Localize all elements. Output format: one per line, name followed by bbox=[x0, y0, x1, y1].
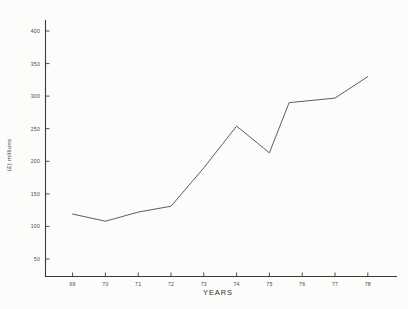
y-tick-label: 400 bbox=[26, 28, 40, 34]
y-axis-label: (£) millions bbox=[6, 139, 12, 172]
y-tick-label: 350 bbox=[26, 61, 40, 67]
x-tick-label: 69 bbox=[70, 281, 76, 287]
y-axis-ticks bbox=[46, 31, 50, 259]
line-chart-figure: 400 350 300 250 200 150 100 50 69 70 71 … bbox=[0, 0, 408, 309]
y-tick-label: 200 bbox=[26, 158, 40, 164]
x-tick-label: 78 bbox=[365, 281, 371, 287]
x-tick-label: 74 bbox=[234, 281, 240, 287]
y-tick-label: 100 bbox=[26, 223, 40, 229]
y-tick-label: 250 bbox=[26, 126, 40, 132]
x-axis-ticks bbox=[73, 273, 368, 277]
x-tick-label: 70 bbox=[102, 281, 108, 287]
x-tick-label: 75 bbox=[266, 281, 272, 287]
x-tick-label: 76 bbox=[299, 281, 305, 287]
chart-plot-area bbox=[0, 0, 408, 309]
x-tick-label: 77 bbox=[332, 281, 338, 287]
x-tick-label: 72 bbox=[168, 281, 174, 287]
data-series-line bbox=[73, 77, 368, 222]
x-tick-label: 71 bbox=[135, 281, 141, 287]
x-axis-label: YEARS bbox=[203, 288, 233, 297]
y-tick-label: 50 bbox=[26, 256, 40, 262]
x-tick-label: 73 bbox=[201, 281, 207, 287]
y-tick-label: 150 bbox=[26, 191, 40, 197]
axis-lines bbox=[45, 20, 397, 277]
y-tick-label: 300 bbox=[26, 93, 40, 99]
